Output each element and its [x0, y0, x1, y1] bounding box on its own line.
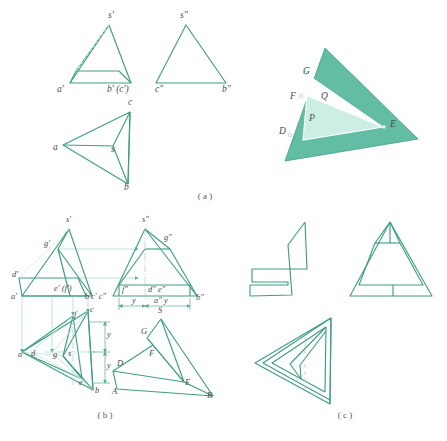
part-c-side-view — [350, 222, 432, 296]
part-a-pictorial-label-P: P — [308, 113, 315, 123]
part-a-top-label-a: a — [53, 142, 58, 152]
part-a-top-label-c: c — [128, 97, 133, 107]
part-b-labels: s'g'd'a'e' (f')b'c' c"s"g"f"d" e"b"ya" y… — [11, 214, 212, 400]
part-b-side-label-s-double-prime: s" — [142, 214, 149, 224]
part-c: ( c ) — [250, 222, 432, 420]
edge-cb — [88, 311, 93, 390]
inner-outline — [359, 222, 423, 285]
part-b-top-label-e: e — [79, 377, 83, 387]
engineering-drawing-figure: s'a'b' (c')s"c"b"casbGFQPDE ( a ) — [0, 0, 447, 441]
vertex-F — [299, 94, 302, 97]
part-b-top-label-y-lower: y — [106, 360, 111, 370]
edge-DE — [113, 371, 184, 382]
edge-as — [63, 145, 113, 146]
part-a-side-view — [156, 25, 226, 83]
edge-left-in — [119, 249, 145, 285]
part-b-projection-lines — [22, 249, 138, 352]
part-a-side-label-c-double-prime: c" — [155, 84, 164, 94]
part-a-pictorial-label-F: F — [289, 91, 296, 101]
vertex-D — [288, 133, 291, 136]
part-b-pictorial — [113, 319, 213, 396]
edge-sc — [113, 112, 130, 146]
part-b-pictorial-label-F: F — [148, 348, 155, 358]
part-a-front-view — [70, 25, 131, 83]
vertex-E — [382, 125, 385, 128]
part-b-front-label-d-prime: d' — [12, 269, 18, 279]
inner-notch — [290, 327, 326, 379]
part-b-side-label-a-double-prime-y: a" y — [154, 295, 168, 305]
part-a-side-label-b-double-prime: b" — [222, 84, 232, 94]
part-a-top-label-b: b — [124, 182, 129, 192]
part-b-front-label-s-prime: s' — [66, 214, 71, 224]
part-b-pictorial-label-D: D — [116, 358, 124, 368]
part-b-pictorial-label-G: G — [141, 326, 147, 336]
part-a: s'a'b' (c')s"c"b"casbGFQPDE ( a ) — [53, 10, 418, 201]
part-a-front-label-a-prime: a' — [57, 84, 65, 94]
part-a-top-label-s: s — [111, 144, 115, 154]
part-b-side-label-g-double-prime: g" — [164, 232, 172, 242]
part-b-pictorial-label-B: B — [207, 390, 212, 400]
outer-triangle — [63, 112, 130, 184]
part-b-side-label-b-double-prime: b" — [196, 292, 204, 302]
inner-right-edge — [325, 327, 326, 392]
part-b-top-label-s: s — [68, 348, 72, 358]
caption-b: ( b ) — [98, 410, 113, 420]
part-a-top-view — [63, 112, 130, 184]
part-a-front-label-s-prime: s' — [108, 10, 115, 20]
part-b-front-label-a-prime: a' — [11, 291, 17, 301]
part-a-pictorial — [285, 48, 418, 161]
part-b-front-label-g-prime: g' — [44, 238, 50, 248]
part-b-top-label-g: g — [53, 349, 57, 359]
part-b-side-label-y-left: y — [131, 295, 136, 305]
part-b-pictorial-label-S: S — [158, 305, 163, 315]
part-c-top-view — [255, 318, 331, 404]
outline — [250, 222, 307, 296]
part-b-front-label-b-prime-c-prime-c-double-prime: b'c' c" — [85, 291, 107, 301]
caption-a: ( a ) — [198, 191, 213, 201]
part-a-pictorial-label-Q: Q — [321, 91, 328, 101]
part-a-pictorial-label-D: D — [278, 126, 286, 136]
part-b-top-label-a: a — [18, 349, 22, 359]
part-b-top-label-y-upper: y — [106, 329, 111, 339]
edge-SE — [161, 319, 184, 382]
part-a-pictorial-label-E: E — [389, 119, 396, 129]
right-edge — [330, 318, 331, 404]
inner-sfe — [63, 316, 82, 379]
caption-c: ( c ) — [338, 410, 353, 420]
figure-canvas: s'a'b' (c')s"c"b"casbGFQPDE ( a ) — [0, 0, 447, 441]
part-a-side-label-s-double-prime: s" — [180, 10, 189, 20]
outer-triangle — [156, 25, 226, 83]
def-face — [19, 278, 86, 296]
part-c-front-view — [250, 222, 307, 296]
edge-sb — [113, 146, 128, 184]
part-b-pictorial-label-E: E — [184, 377, 191, 387]
part-b-front-label-e-prime-f-prime: e' (f') — [54, 283, 72, 293]
edge-GS — [147, 319, 161, 338]
outer-solid-triangle — [285, 48, 418, 161]
part-b-top-label-c: c — [90, 304, 94, 314]
part-a-front-label-b-prime-c-prime: b' (c') — [107, 84, 129, 95]
part-b-pictorial-label-A: A — [111, 386, 118, 396]
part-b-side-label-d-double-prime-e-double-prime: d" e" — [148, 284, 166, 294]
part-b: s'g'd'a'e' (f')b'c' c"s"g"f"d" e"b"ya" y… — [11, 214, 213, 420]
part-b-side-label-f-double-prime: f" — [122, 284, 128, 294]
part-b-top-label-b: b — [95, 385, 99, 395]
part-a-pictorial-label-G: G — [303, 66, 310, 76]
edge-GF — [147, 338, 153, 345]
edge-cb — [128, 112, 130, 184]
inner-edge-left — [70, 71, 76, 83]
